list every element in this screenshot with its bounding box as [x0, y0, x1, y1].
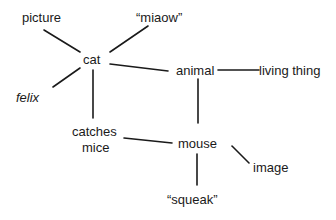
node-catches-mice-line2: mice: [82, 140, 109, 155]
edges: [0, 0, 336, 220]
node-felix: felix: [16, 90, 39, 105]
node-animal: animal: [176, 63, 214, 78]
node-picture: picture: [22, 10, 61, 25]
edge-picture-cat: [44, 30, 80, 52]
node-catches-mice-line1: catches: [72, 124, 117, 139]
edge-felix-cat: [53, 68, 80, 87]
edge-mouse-image: [232, 146, 249, 163]
edge-catches-mice-mouse: [124, 138, 172, 143]
edge-cat-animal: [110, 64, 168, 71]
node-miaow: “miaow”: [136, 10, 182, 25]
node-mouse: mouse: [178, 136, 217, 151]
node-living-thing: living thing: [259, 63, 320, 78]
node-image: image: [253, 160, 288, 175]
edge-miaow-cat: [110, 26, 148, 52]
node-squeak: “squeak”: [167, 192, 218, 207]
node-cat: cat: [83, 52, 100, 67]
